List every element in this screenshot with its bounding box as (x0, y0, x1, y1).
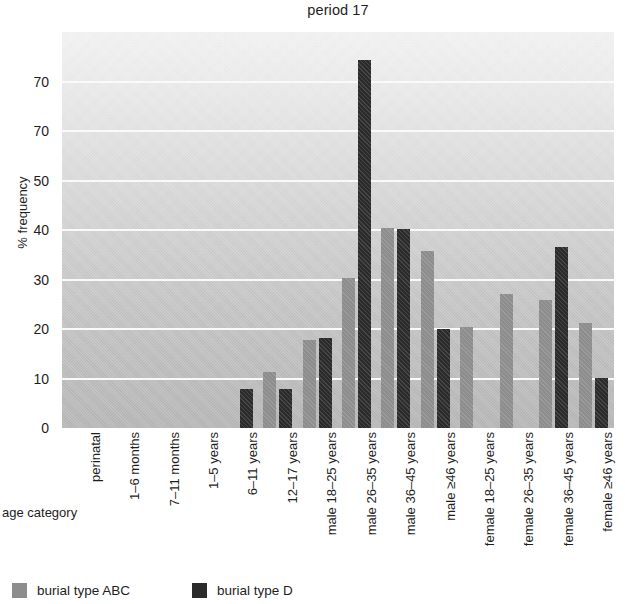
bar-texture (303, 340, 316, 428)
bar-group (141, 32, 180, 428)
x-axis-tick-label: 12–17 years (285, 432, 300, 504)
bar-texture (397, 229, 410, 428)
bar[interactable] (381, 228, 394, 428)
bar-texture (358, 60, 371, 428)
chart-title: period 17 (62, 2, 614, 18)
y-axis-tick-label: 0 (41, 420, 49, 436)
bar-group (62, 32, 101, 428)
bar-group (377, 32, 416, 428)
x-axis-tick-label: male 26–35 years (364, 432, 379, 535)
legend-swatch (192, 583, 207, 598)
bar[interactable] (279, 389, 292, 428)
x-axis-tick-label: female 36–45 years (561, 432, 576, 546)
x-axis-tick-label: male ≥46 years (443, 432, 458, 521)
x-axis-tick-label: 6–11 years (245, 432, 260, 495)
bar[interactable] (437, 329, 450, 428)
y-axis-tick-label: 30 (33, 272, 49, 288)
legend-swatch (12, 583, 27, 598)
bar-group (496, 32, 535, 428)
bar[interactable] (579, 323, 592, 428)
y-axis-tick-label: 20 (33, 321, 49, 337)
bar-texture (579, 323, 592, 428)
bar[interactable] (397, 229, 410, 428)
x-axis-tick-label: 1–5 years (206, 432, 221, 489)
legend-label: burial type D (217, 583, 293, 598)
bar[interactable] (358, 60, 371, 428)
bar-texture (460, 327, 473, 428)
bar-texture (263, 372, 276, 428)
x-axis-tick-label: female 18–25 years (482, 432, 497, 546)
bar-group (456, 32, 495, 428)
x-axis-tick-label: male 36–45 years (403, 432, 418, 535)
y-axis-tick-label: 50 (33, 173, 49, 189)
bar[interactable] (263, 372, 276, 428)
bar-group (180, 32, 219, 428)
bar-texture (555, 247, 568, 428)
chart-figure: period 17 % frequency age category 70705… (0, 0, 625, 604)
bar-texture (500, 294, 513, 428)
bar-group (535, 32, 574, 428)
bar-group (575, 32, 614, 428)
bar-texture (319, 338, 332, 428)
legend-label: burial type ABC (37, 583, 130, 598)
y-axis-tick-label: 70 (33, 123, 49, 139)
bar-texture (437, 329, 450, 428)
bar-texture (342, 278, 355, 428)
bar-group (259, 32, 298, 428)
bar[interactable] (555, 247, 568, 428)
y-axis-tick-label: 40 (33, 222, 49, 238)
bar[interactable] (539, 300, 552, 428)
bar[interactable] (342, 278, 355, 428)
bar[interactable] (500, 294, 513, 428)
bar-group (299, 32, 338, 428)
bar-texture (539, 300, 552, 428)
bar-group (338, 32, 377, 428)
bar-group (220, 32, 259, 428)
x-axis-tick-label: female 26–35 years (521, 432, 536, 546)
bar[interactable] (595, 378, 608, 428)
plot-area (62, 32, 614, 428)
bar-texture (595, 378, 608, 428)
bar[interactable] (240, 389, 253, 428)
bar[interactable] (421, 251, 434, 428)
bar-texture (279, 389, 292, 428)
bar-texture (381, 228, 394, 428)
bar-texture (421, 251, 434, 428)
x-axis-tick-label: 7–11 months (167, 432, 182, 506)
y-axis-tick-label: 70 (33, 74, 49, 90)
bar-texture (240, 389, 253, 428)
legend-item[interactable]: burial type ABC (12, 583, 130, 598)
bars-layer (62, 32, 614, 428)
bar[interactable] (319, 338, 332, 428)
x-axis-tick-label: female ≥46 years (600, 432, 615, 532)
x-axis-tick-label: perinatal (88, 432, 103, 482)
bar-group (417, 32, 456, 428)
chart-legend: burial type ABCburial type D (12, 583, 293, 598)
legend-item[interactable]: burial type D (192, 583, 293, 598)
bar-group (101, 32, 140, 428)
bar[interactable] (460, 327, 473, 428)
y-axis-tick-label: 10 (33, 371, 49, 387)
x-axis-tick-labels: perinatal1–6 months7–11 months1–5 years6… (62, 432, 614, 577)
x-axis-tick-label: 1–6 months (127, 432, 142, 500)
bar[interactable] (303, 340, 316, 428)
x-axis-tick-label: male 18–25 years (324, 432, 339, 535)
y-axis-tick-labels: 707050403020100 (0, 0, 58, 440)
